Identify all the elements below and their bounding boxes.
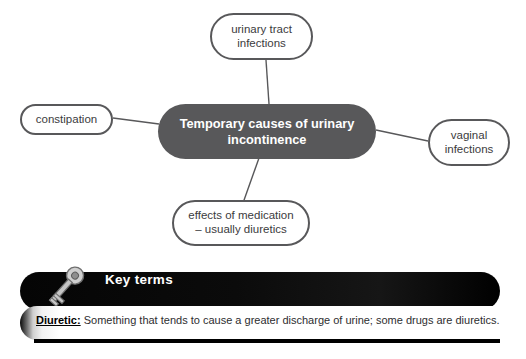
node-label: effects of medication – usually diuretic…	[188, 209, 293, 237]
node-label: constipation	[36, 113, 97, 127]
node-effects-of-medication: effects of medication – usually diuretic…	[172, 200, 310, 246]
key-terms-entry: Diuretic: Something that tends to cause …	[36, 314, 499, 326]
key-terms-panel: Key terms Diuretic: Something that tends…	[20, 262, 502, 348]
key-terms-definition: Something that tends to cause a greater …	[84, 314, 500, 326]
connector-center-to-vaginal	[376, 130, 428, 141]
node-urinary-tract-infections: urinary tract infections	[210, 13, 313, 60]
connector-center-to-medication	[243, 158, 259, 203]
node-label: Temporary causes of urinary incontinence	[180, 116, 355, 147]
node-vaginal-infections: vaginal infections	[428, 119, 510, 166]
node-label: urinary tract infections	[231, 23, 292, 51]
node-label: vaginal infections	[445, 129, 494, 157]
key-terms-title: Key terms	[105, 272, 173, 287]
key-terms-header-bar	[20, 272, 500, 310]
node-constipation: constipation	[20, 104, 113, 135]
mind-map-diagram: urinary tract infections constipation va…	[0, 0, 526, 258]
connector-center-to-uti	[266, 60, 269, 104]
node-central-topic: Temporary causes of urinary incontinence	[158, 104, 376, 159]
key-terms-bottom-rule	[34, 339, 500, 343]
connector-center-to-constipation	[113, 118, 159, 124]
key-terms-term: Diuretic:	[36, 314, 81, 326]
